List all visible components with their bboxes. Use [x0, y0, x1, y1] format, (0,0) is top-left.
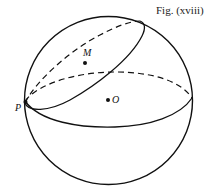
sphere-diagram	[0, 0, 212, 196]
label-p: P	[15, 102, 21, 113]
equator-back-arc	[25, 72, 192, 101]
point-o	[106, 98, 110, 102]
point-p	[24, 100, 28, 104]
label-o: O	[112, 94, 119, 105]
figure-caption: Fig. (xviii)	[156, 4, 204, 16]
small-circle-front-arc	[25, 21, 144, 109]
equator-front-arc	[25, 98, 192, 127]
point-m	[83, 61, 87, 65]
label-m: M	[83, 47, 91, 58]
small-circle-back-arc	[25, 21, 140, 103]
